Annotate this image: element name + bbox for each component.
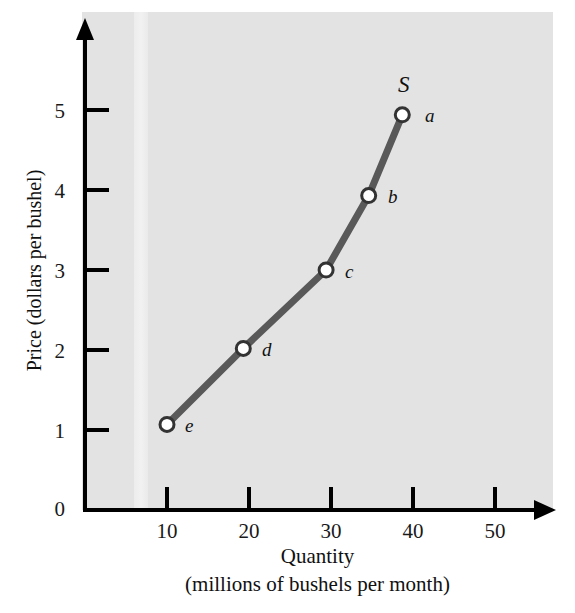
x-tick-label-20: 20 [229,519,269,544]
x-axis-title: Quantity (millions of bushels per month) [82,543,553,598]
point-label-d: d [262,339,272,361]
supply-curve-line [167,115,402,425]
x-tick-label-50: 50 [475,519,515,544]
x-tick-label-40: 40 [393,519,433,544]
data-point-a [395,108,409,122]
point-label-a: a [425,105,435,127]
y-tick-label-1: 1 [35,419,65,444]
point-label-c: c [345,261,353,283]
data-point-e [160,417,174,431]
data-point-d [236,341,250,355]
y-tick-label-5: 5 [35,99,65,124]
y-axis [76,18,94,511]
x-axis-title-main: Quantity [281,544,355,568]
supply-curve-figure: 5 4 3 2 1 0 10 20 30 40 50 a b c d e S P… [0,0,575,613]
x-axis-title-sub: (millions of bushels per month) [82,571,553,599]
x-tick-label-30: 30 [311,519,351,544]
supply-curve-label: S [398,72,410,98]
point-label-b: b [388,186,398,208]
supply-curve-markers [160,108,409,432]
x-tick-label-10: 10 [147,519,187,544]
x-axis [83,500,556,520]
y-axis-title: Price (dollars per bushel) [23,131,46,411]
y-axis-ticks [85,110,109,430]
data-point-c [319,263,333,277]
x-axis-ticks [167,487,495,510]
data-point-b [362,189,376,203]
point-label-e: e [185,415,193,437]
y-tick-label-0: 0 [35,497,65,522]
